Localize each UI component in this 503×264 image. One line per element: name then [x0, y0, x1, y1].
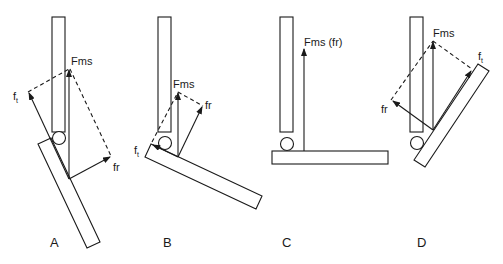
label-ft: ft [134, 144, 139, 158]
panel-label-d: D [417, 235, 426, 250]
label-fms: Fms [433, 27, 455, 39]
label-ft: ft [13, 90, 18, 104]
panel-c: Fms (fr) C [272, 17, 388, 250]
roller [53, 132, 66, 145]
pillar [280, 17, 293, 132]
panel-label-b: B [163, 235, 172, 250]
panel-a: Fms ft fr A [13, 17, 120, 250]
label-fms: Fms [71, 55, 93, 67]
board [272, 151, 388, 164]
label-ft: ft [478, 50, 483, 64]
roller [281, 138, 294, 151]
board [414, 64, 489, 167]
panel-d: Fms fr ft D [381, 17, 489, 250]
force-diagram-figure: Fms ft fr A Fms fr ft B [0, 0, 503, 264]
label-fr: fr [113, 161, 120, 173]
label-fms: Fms [173, 78, 195, 90]
dashed-line [70, 69, 111, 156]
dashed-line [433, 41, 472, 69]
pillar [158, 17, 171, 132]
dashed-line [178, 92, 203, 106]
label-fr: fr [381, 103, 388, 115]
panel-b: Fms fr ft B [134, 17, 262, 250]
vector-fr [69, 157, 110, 179]
panel-label-c: C [282, 235, 291, 250]
roller [159, 137, 172, 150]
vector-fr [178, 107, 202, 157]
label-fr: fr [205, 99, 212, 111]
label-fms-fr: Fms (fr) [304, 36, 342, 48]
panel-label-a: A [50, 235, 59, 250]
roller [411, 137, 424, 150]
board [145, 144, 262, 209]
